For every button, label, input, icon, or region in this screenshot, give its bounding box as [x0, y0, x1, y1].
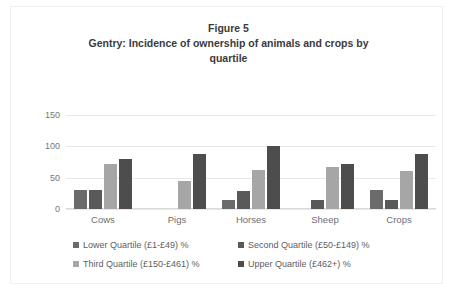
legend-swatch-icon-3	[73, 261, 79, 267]
legend-label-2: Second Quartile (£50-£149) %	[248, 240, 370, 250]
chart-container: Figure 5 Gentry: Incidence of ownership …	[10, 6, 443, 284]
y-tick-label-0: 0	[55, 204, 60, 214]
bar-group-horses: Horses	[214, 115, 288, 209]
bar-cows-series-3[interactable]	[104, 164, 117, 209]
bar-slot	[148, 115, 161, 209]
x-axis-label-cows: Cows	[66, 214, 140, 225]
bar-slot	[89, 115, 102, 209]
bar-slot	[385, 115, 398, 209]
chart-title-line-3: quartile	[51, 51, 406, 66]
bar-group-cows: Cows	[66, 115, 140, 209]
legend-label-4: Upper Quartile (£462+) %	[248, 259, 351, 269]
legend-item-2[interactable]: Second Quartile (£50-£149) %	[238, 235, 403, 254]
bar-crops-series-4[interactable]	[415, 154, 428, 209]
bar-slot	[341, 115, 354, 209]
bar-groups: CowsPigsHorsesSheepCrops	[66, 115, 436, 209]
bar-group-pigs: Pigs	[140, 115, 214, 209]
bar-sheep-series-4[interactable]	[341, 164, 354, 209]
bar-slot	[119, 115, 132, 209]
chart-title-line-1: Figure 5	[51, 21, 406, 36]
x-axis-label-sheep: Sheep	[288, 214, 362, 225]
bar-horses-series-3[interactable]	[252, 170, 265, 209]
bar-slot	[326, 115, 339, 209]
bar-horses-series-1[interactable]	[222, 200, 235, 209]
bar-horses-series-2[interactable]	[237, 191, 250, 209]
bar-horses-series-4[interactable]	[267, 146, 280, 209]
legend-swatch-icon-1	[73, 242, 79, 248]
bar-slot	[252, 115, 265, 209]
bar-slot	[400, 115, 413, 209]
bar-crops-series-3[interactable]	[400, 171, 413, 209]
y-tick-label-150: 150	[45, 110, 60, 120]
bar-group-sheep: Sheep	[288, 115, 362, 209]
gridline-0	[66, 209, 436, 210]
bar-group-crops: Crops	[362, 115, 436, 209]
bar-cows-series-4[interactable]	[119, 159, 132, 209]
chart-legend: Lower Quartile (£1-£49) %Second Quartile…	[73, 235, 403, 273]
x-axis-label-crops: Crops	[362, 214, 436, 225]
bar-slot	[163, 115, 176, 209]
bar-crops-series-1[interactable]	[370, 190, 383, 209]
bar-slot	[178, 115, 191, 209]
bar-slot	[222, 115, 235, 209]
legend-swatch-icon-2	[238, 242, 244, 248]
x-axis-label-horses: Horses	[214, 214, 288, 225]
bar-crops-series-2[interactable]	[385, 200, 398, 209]
bar-slot	[104, 115, 117, 209]
plot-area: 150100500 CowsPigsHorsesSheepCrops	[66, 115, 436, 209]
legend-swatch-icon-4	[238, 261, 244, 267]
legend-item-3[interactable]: Third Quartile (£150-£461) %	[73, 254, 238, 273]
bar-sheep-series-2[interactable]	[311, 200, 324, 209]
bar-slot	[296, 115, 309, 209]
legend-item-4[interactable]: Upper Quartile (£462+) %	[238, 254, 403, 273]
chart-title: Figure 5 Gentry: Incidence of ownership …	[51, 21, 406, 66]
bar-pigs-series-3[interactable]	[178, 181, 191, 209]
x-axis-label-pigs: Pigs	[140, 214, 214, 225]
bar-cows-series-2[interactable]	[89, 190, 102, 209]
bar-sheep-series-3[interactable]	[326, 167, 339, 209]
bar-slot	[415, 115, 428, 209]
legend-item-1[interactable]: Lower Quartile (£1-£49) %	[73, 235, 238, 254]
bar-slot	[74, 115, 87, 209]
y-tick-label-100: 100	[45, 141, 60, 151]
legend-label-3: Third Quartile (£150-£461) %	[83, 259, 200, 269]
bar-slot	[193, 115, 206, 209]
bar-slot	[311, 115, 324, 209]
y-tick-label-50: 50	[50, 173, 60, 183]
bar-pigs-series-4[interactable]	[193, 154, 206, 209]
bar-slot	[237, 115, 250, 209]
chart-title-line-2: Gentry: Incidence of ownership of animal…	[51, 36, 406, 51]
bar-slot	[267, 115, 280, 209]
bar-cows-series-1[interactable]	[74, 190, 87, 209]
legend-label-1: Lower Quartile (£1-£49) %	[83, 240, 189, 250]
bar-slot	[370, 115, 383, 209]
